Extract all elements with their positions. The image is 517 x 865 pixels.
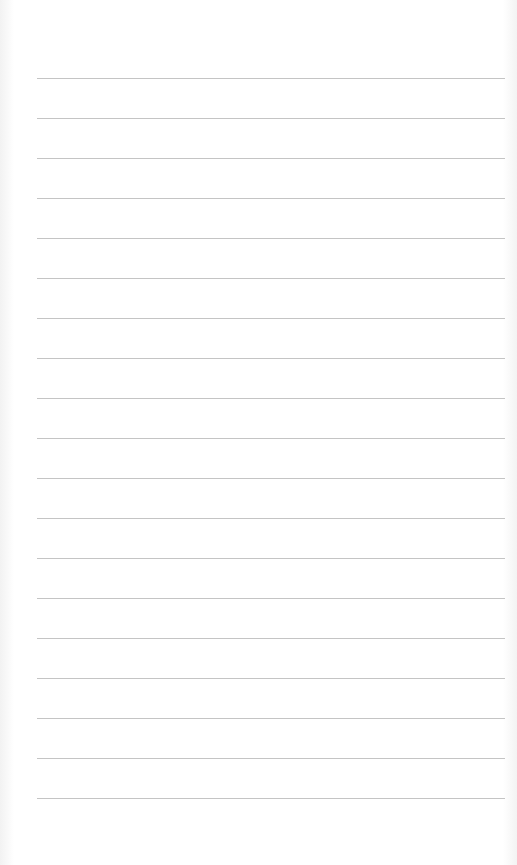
ruled-line <box>37 718 505 719</box>
ruled-line <box>37 158 505 159</box>
ruled-line <box>37 478 505 479</box>
lined-paper-page <box>0 0 517 865</box>
ruled-line <box>37 278 505 279</box>
ruled-line <box>37 358 505 359</box>
ruled-line <box>37 678 505 679</box>
ruled-line <box>37 598 505 599</box>
ruled-line <box>37 78 505 79</box>
ruled-line <box>37 638 505 639</box>
ruled-line <box>37 758 505 759</box>
ruled-line <box>37 798 505 799</box>
ruled-line <box>37 118 505 119</box>
ruled-line <box>37 398 505 399</box>
ruled-line <box>37 198 505 199</box>
ruled-line <box>37 438 505 439</box>
ruled-line <box>37 558 505 559</box>
ruled-line <box>37 518 505 519</box>
ruled-line <box>37 238 505 239</box>
ruled-line <box>37 318 505 319</box>
